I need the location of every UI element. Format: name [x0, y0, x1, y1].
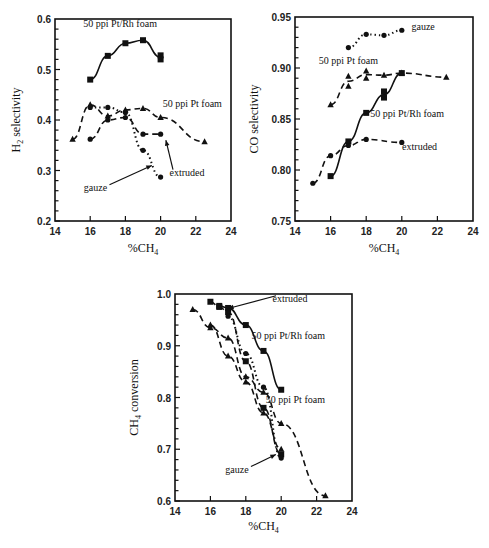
y-tick-label: 0.9 [157, 341, 171, 352]
y-tick-label: 0.80 [272, 165, 292, 176]
y-tick-label: 0.5 [37, 65, 51, 76]
x-tick-label: 16 [205, 506, 217, 517]
y-tick-label: 1.0 [157, 289, 171, 300]
h2-selectivity-chart: 1416182022240.20.30.40.50.6%CH4H2 select… [9, 14, 237, 257]
y-tick-label: 0.6 [37, 14, 51, 25]
y-tick-label: 0.3 [37, 166, 51, 177]
x-tick-label: 22 [190, 226, 202, 237]
y-axis-label: CO selectivity [247, 85, 261, 154]
annotation-label: 50 ppi Pt/Rh foam [83, 18, 157, 29]
annotation-label: extruded [170, 167, 205, 178]
annotation-label: 50 ppi Pt foam [319, 55, 378, 66]
x-tick-label: 20 [396, 226, 408, 237]
y-tick-label: 0.8 [157, 393, 171, 404]
co-selectivity-chart: 1416182022240.750.800.850.900.95%CH4CO s… [247, 12, 479, 257]
series-pt-foam-second-run- [207, 322, 284, 452]
plot-frame [175, 294, 352, 501]
figure: 1416182022240.20.30.40.50.6%CH4H2 select… [0, 0, 489, 548]
x-tick-label: 24 [346, 506, 358, 517]
annotation-label: 50 ppi Pt foam [163, 98, 222, 109]
y-tick-label: 0.7 [157, 444, 171, 455]
x-tick-label: 18 [361, 226, 373, 237]
y-tick-label: 0.95 [272, 12, 292, 23]
x-tick-label: 24 [225, 226, 237, 237]
series-50-ppi-pt-foam [327, 68, 449, 108]
series-extruded [88, 115, 164, 142]
annotation-label: gauze [225, 464, 249, 475]
y-axis-label: CH4 conversion [127, 359, 143, 435]
y-tick-label: 0.4 [37, 115, 51, 126]
y-axis-label: H2 selectivity [9, 88, 25, 153]
x-tick-label: 14 [49, 226, 61, 237]
annotation-label: 50 ppi Pt/Rh foam [251, 330, 325, 341]
series-50-ppi-pt-rh-foam [87, 37, 163, 82]
series-gauze [346, 28, 405, 51]
annotation-label: gauze [84, 182, 108, 193]
x-tick-label: 14 [169, 506, 181, 517]
x-tick-label: 24 [467, 226, 479, 237]
annotation-arrow [228, 296, 276, 309]
series-extruded [310, 137, 404, 186]
x-tick-label: 22 [311, 506, 323, 517]
y-tick-label: 0.90 [272, 63, 292, 74]
x-tick-label: 16 [85, 226, 97, 237]
plot-frame [295, 17, 473, 221]
annotation-label: extruded [273, 293, 308, 304]
x-tick-label: 18 [120, 226, 132, 237]
x-axis-label: %CH4 [248, 519, 279, 535]
x-tick-label: 14 [289, 226, 301, 237]
annotation-label: 50 ppi Pt/Rh foam [370, 108, 444, 119]
series-50-ppi-pt-rh-foam [328, 70, 405, 179]
ch4-conversion-chart: 1416182022240.60.70.80.91.0%CH4CH4 conve… [127, 289, 358, 535]
x-tick-label: 16 [325, 226, 337, 237]
y-tick-label: 0.6 [157, 496, 171, 507]
x-tick-label: 22 [432, 226, 444, 237]
annotation-label: extruded [402, 141, 437, 152]
x-tick-label: 20 [276, 506, 288, 517]
x-axis-label: %CH4 [128, 241, 159, 257]
y-tick-label: 0.75 [272, 216, 292, 227]
y-tick-label: 0.2 [37, 216, 51, 227]
annotation-label: 50 ppi Pt foam [266, 394, 325, 405]
x-axis-label: %CH4 [369, 241, 400, 257]
annotation-label: gauze [411, 21, 435, 32]
y-tick-label: 0.85 [272, 114, 292, 125]
x-tick-label: 18 [240, 506, 252, 517]
x-tick-label: 20 [155, 226, 167, 237]
annotation-arrow [109, 165, 151, 184]
